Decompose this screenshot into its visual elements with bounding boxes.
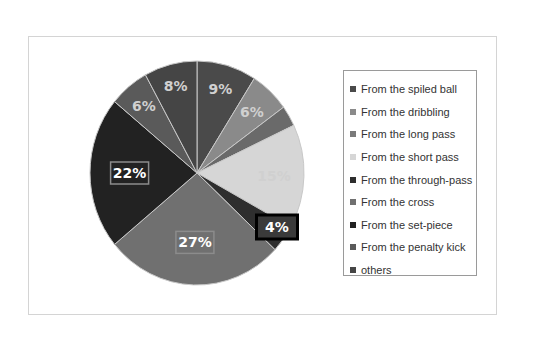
- legend-item: From the long pass: [350, 123, 476, 146]
- legend-swatch-icon: [350, 267, 356, 273]
- legend-label: From the penalty kick: [361, 241, 466, 253]
- legend-item: From the short pass: [350, 146, 476, 169]
- legend-item: From the penalty kick: [350, 236, 476, 259]
- legend-label: From the long pass: [361, 128, 455, 140]
- slice-label: 22%: [113, 165, 147, 181]
- legend-swatch-icon: [350, 222, 356, 228]
- legend-swatch-icon: [350, 199, 356, 205]
- legend-label: From the spiled ball: [361, 83, 457, 95]
- legend-item: From the cross: [350, 191, 476, 214]
- legend-swatch-icon: [350, 154, 356, 160]
- legend-label: From the set-piece: [361, 219, 453, 231]
- legend-item: From the spiled ball: [350, 78, 476, 101]
- slice-label: 6%: [132, 98, 156, 114]
- legend-label: From the dribbling: [361, 106, 450, 118]
- legend-swatch-icon: [350, 177, 356, 183]
- legend-swatch-icon: [350, 131, 356, 137]
- legend-label: From the cross: [361, 196, 434, 208]
- legend-swatch-icon: [350, 86, 356, 92]
- legend-label: From the short pass: [361, 151, 459, 163]
- slice-label: 4%: [265, 219, 289, 235]
- legend-swatch-icon: [350, 109, 356, 115]
- legend-label: From the through-pass: [361, 174, 472, 186]
- slice-label: 15%: [257, 168, 291, 184]
- legend-item: From the through-pass: [350, 168, 476, 191]
- chart-legend: From the spiled ball From the dribbling …: [343, 70, 477, 276]
- legend-label: others: [361, 264, 392, 276]
- legend-item: From the dribbling: [350, 101, 476, 124]
- slice-label: 9%: [208, 81, 232, 97]
- legend-item: others: [350, 259, 476, 282]
- slice-label: 8%: [164, 78, 188, 94]
- legend-swatch-icon: [350, 244, 356, 250]
- legend-item: From the set-piece: [350, 214, 476, 237]
- slice-label: 27%: [178, 234, 212, 250]
- slice-label: 6%: [240, 104, 264, 120]
